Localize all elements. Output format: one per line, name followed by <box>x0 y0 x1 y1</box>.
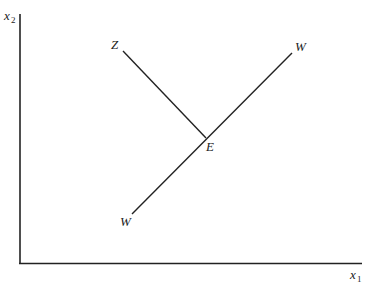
y-axis-label-subscript: 2 <box>11 15 16 25</box>
point-label-e: E <box>205 139 214 154</box>
line-ze <box>123 51 206 138</box>
point-label-w-top: W <box>295 39 307 54</box>
line-ww <box>132 53 292 214</box>
x-axis-label: x <box>349 267 356 282</box>
point-label-z: Z <box>111 37 119 52</box>
y-axis-label: x <box>3 8 10 23</box>
diagram-canvas: x 2 x 1 Z W W E <box>0 0 373 287</box>
point-label-w-bottom: W <box>120 214 132 229</box>
x-axis-label-subscript: 1 <box>357 274 362 284</box>
